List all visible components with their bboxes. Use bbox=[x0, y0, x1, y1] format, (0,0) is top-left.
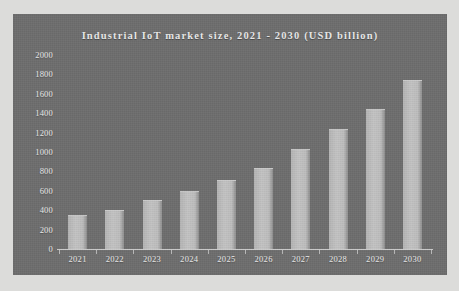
bar bbox=[329, 129, 348, 249]
plot-area bbox=[59, 55, 431, 249]
bar bbox=[366, 109, 385, 249]
chart-title: Industrial IoT market size, 2021 - 2030 … bbox=[13, 30, 447, 41]
bar bbox=[291, 149, 310, 249]
y-axis-tick-label: 1000 bbox=[35, 147, 53, 157]
x-axis-tick-mark bbox=[208, 250, 209, 254]
x-axis-tick-label: 2027 bbox=[282, 254, 320, 264]
bar bbox=[403, 80, 422, 249]
y-axis: 0200400600800100012001400160018002000 bbox=[13, 55, 57, 249]
y-axis-tick-label: 2000 bbox=[35, 50, 53, 60]
x-axis-tick-label: 2026 bbox=[245, 254, 283, 264]
y-axis-tick-label: 200 bbox=[40, 225, 53, 235]
x-axis-tick-mark bbox=[394, 250, 395, 254]
x-axis: 2021202220232024202520262027202820292030 bbox=[59, 254, 431, 272]
y-axis-tick-label: 1200 bbox=[35, 128, 53, 138]
x-axis-tick-mark bbox=[171, 250, 172, 254]
y-axis-tick-label: 1400 bbox=[35, 108, 53, 118]
x-axis-tick-mark bbox=[59, 250, 60, 254]
x-axis-tick-label: 2023 bbox=[133, 254, 171, 264]
x-axis-tick-mark bbox=[431, 250, 432, 254]
x-axis-tick-mark bbox=[319, 250, 320, 254]
y-axis-tick-label: 0 bbox=[49, 244, 53, 254]
x-axis-tick-label: 2021 bbox=[59, 254, 97, 264]
y-axis-tick-label: 800 bbox=[40, 166, 53, 176]
x-axis-tick-mark bbox=[282, 250, 283, 254]
x-axis-tick-label: 2030 bbox=[393, 254, 431, 264]
chart-panel: Industrial IoT market size, 2021 - 2030 … bbox=[13, 14, 447, 275]
x-axis-tick-mark bbox=[96, 250, 97, 254]
x-axis-tick-mark bbox=[133, 250, 134, 254]
bar bbox=[180, 191, 199, 249]
x-axis-tick-mark bbox=[245, 250, 246, 254]
x-axis-tick-label: 2024 bbox=[170, 254, 208, 264]
x-axis-tick-mark bbox=[357, 250, 358, 254]
y-axis-tick-label: 1800 bbox=[35, 69, 53, 79]
x-axis-tick-label: 2028 bbox=[319, 254, 357, 264]
bar bbox=[105, 210, 124, 249]
y-axis-tick-label: 600 bbox=[40, 186, 53, 196]
x-axis-tick-label: 2025 bbox=[207, 254, 245, 264]
y-axis-tick-label: 400 bbox=[40, 205, 53, 215]
bar bbox=[143, 200, 162, 250]
x-axis-tick-label: 2022 bbox=[96, 254, 134, 264]
y-axis-tick-label: 1600 bbox=[35, 89, 53, 99]
bar bbox=[254, 168, 273, 249]
bar bbox=[68, 215, 87, 249]
x-axis-tick-label: 2029 bbox=[356, 254, 394, 264]
bar bbox=[217, 180, 236, 249]
chart-image: Industrial IoT market size, 2021 - 2030 … bbox=[0, 0, 459, 291]
